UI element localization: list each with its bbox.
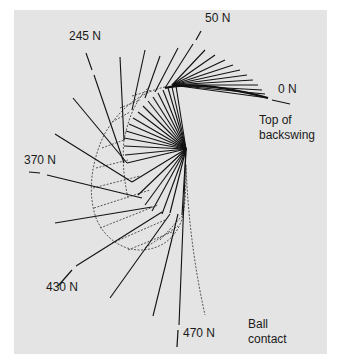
ball-contact-line2: contact: [248, 332, 287, 347]
ball-contact-line1: Ball: [248, 317, 287, 332]
label-370n: 370 N: [24, 153, 56, 167]
label-430n: 430 N: [46, 280, 78, 294]
label-ball-contact: Ball contact: [248, 317, 287, 347]
golf-swing-stick-diagram: [0, 0, 337, 362]
label-top-of-backswing: Top of backswing: [259, 113, 315, 143]
label-245n: 245 N: [69, 29, 101, 43]
top-of-backswing-line1: Top of: [259, 113, 315, 128]
label-50n: 50 N: [205, 11, 230, 25]
radial-lines-from-hub: [29, 86, 186, 347]
top-of-backswing-line2: backswing: [259, 128, 315, 143]
label-470n: 470 N: [183, 326, 215, 340]
label-0n: 0 N: [278, 82, 297, 96]
